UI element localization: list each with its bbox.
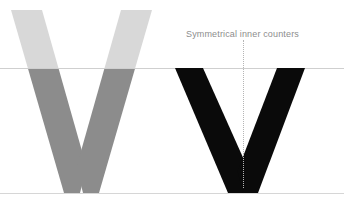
center-axis-guide (243, 40, 244, 188)
annotation-label: Symmetrical inner counters (186, 28, 299, 40)
typography-specimen-canvas: Symmetrical inner counters (0, 0, 344, 207)
black-v-shape-left-stem (175, 68, 249, 193)
baseline-guide (0, 193, 344, 194)
black-v-shape-right-stem (238, 68, 306, 193)
